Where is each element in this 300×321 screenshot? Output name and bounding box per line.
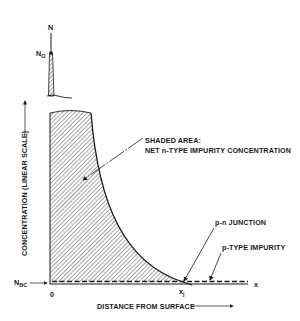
peak-spike	[47, 33, 72, 98]
x-axis-title: DISTANCE FROM SURFACE	[97, 302, 195, 311]
pn-junction-leader	[184, 228, 214, 281]
impurity-profile-diagram: N NO NBC CONCENTRATION (LINEAR SCALE) 0 …	[0, 0, 300, 321]
nbc-label: NBC	[14, 278, 27, 288]
p-type-leader	[210, 253, 221, 280]
p-type-label: p-TYPE IMPURITY	[222, 243, 285, 252]
xj-label: xj	[179, 287, 185, 297]
peak-point	[49, 51, 53, 55]
shaded-area-label-2: NET n-TYPE IMPURITY CONCENTRATION	[145, 146, 291, 155]
pn-junction-label: p-n JUNCTION	[215, 218, 266, 227]
n0-label: NO	[36, 49, 46, 59]
x-end-label: x	[254, 280, 258, 289]
shaded-area-label-1: SHADED AREA:	[145, 136, 201, 145]
y-axis-title: CONCENTRATION (LINEAR SCALE)	[20, 130, 29, 256]
n-axis-label: N	[48, 23, 53, 32]
origin-label: 0	[50, 290, 54, 299]
